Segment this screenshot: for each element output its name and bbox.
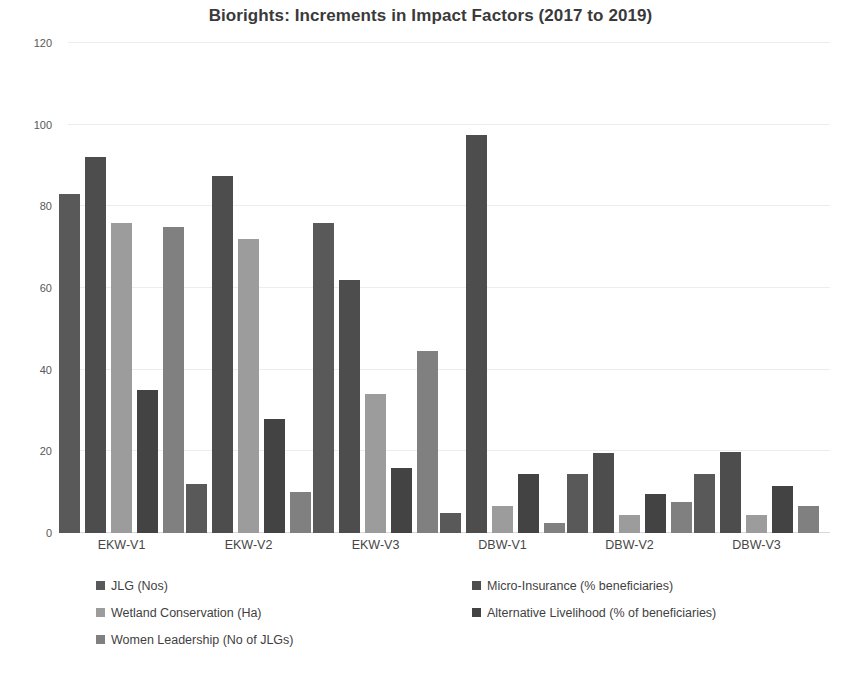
bar[interactable]	[238, 239, 259, 533]
bar[interactable]	[111, 223, 132, 533]
y-tick-label-0: 0	[46, 527, 52, 539]
legend-item[interactable]: JLG (Nos)	[96, 572, 294, 599]
chart-title: Biorights: Increments in Impact Factors …	[0, 6, 861, 26]
bar-group-dbw-v2	[576, 43, 703, 533]
bar-chart-figure: Biorights: Increments in Impact Factors …	[0, 0, 861, 677]
bar[interactable]	[466, 135, 487, 533]
bar[interactable]	[772, 486, 793, 533]
y-tick-label-20: 20	[40, 445, 52, 457]
legend-item[interactable]: Micro-Insurance (% beneficiaries)	[472, 572, 716, 599]
bar[interactable]	[85, 157, 106, 533]
bar[interactable]	[798, 506, 819, 533]
bar[interactable]	[518, 474, 539, 533]
bar[interactable]	[671, 502, 692, 533]
legend-column-right: Micro-Insurance (% beneficiaries)Alterna…	[472, 572, 716, 626]
bar[interactable]	[391, 468, 412, 533]
bar[interactable]	[137, 390, 158, 533]
bar[interactable]	[567, 474, 588, 533]
bar[interactable]	[492, 506, 513, 533]
bar-group-ekw-v3	[322, 43, 449, 533]
bar[interactable]	[720, 452, 741, 533]
y-tick-label-40: 40	[40, 364, 52, 376]
legend-swatch	[96, 608, 105, 617]
legend-swatch	[472, 581, 481, 590]
x-axis-category-labels: EKW-V1EKW-V2EKW-V3DBW-V1DBW-V2DBW-V3	[68, 538, 830, 558]
bar[interactable]	[544, 523, 565, 533]
bar[interactable]	[313, 223, 334, 533]
legend-label: Micro-Insurance (% beneficiaries)	[487, 579, 673, 593]
legend-label: Women Leadership (No of JLGs)	[111, 633, 294, 647]
legend-item[interactable]: Wetland Conservation (Ha)	[96, 599, 294, 626]
bar[interactable]	[339, 280, 360, 533]
x-tick-label-ekw-v1: EKW-V1	[98, 538, 146, 552]
bar[interactable]	[186, 484, 207, 533]
bar[interactable]	[440, 513, 461, 533]
bar-group-ekw-v2	[195, 43, 322, 533]
plot-area	[68, 43, 830, 533]
bar-group-dbw-v1	[449, 43, 576, 533]
bar[interactable]	[365, 394, 386, 533]
legend-column-left: JLG (Nos)Wetland Conservation (Ha)Women …	[96, 572, 294, 653]
bar[interactable]	[212, 176, 233, 533]
x-tick-label-ekw-v3: EKW-V3	[352, 538, 400, 552]
y-axis-tick-labels: 020406080100120	[0, 43, 62, 533]
chart-legend: JLG (Nos)Wetland Conservation (Ha)Women …	[0, 572, 861, 652]
bar[interactable]	[645, 494, 666, 533]
y-tick-label-80: 80	[40, 200, 52, 212]
bar[interactable]	[746, 515, 767, 533]
legend-item[interactable]: Women Leadership (No of JLGs)	[96, 626, 294, 653]
bar[interactable]	[619, 515, 640, 533]
legend-swatch	[472, 608, 481, 617]
bar[interactable]	[163, 227, 184, 533]
legend-label: JLG (Nos)	[111, 579, 168, 593]
y-tick-label-100: 100	[34, 119, 52, 131]
bar[interactable]	[290, 492, 311, 533]
bar-group-ekw-v1	[68, 43, 195, 533]
bar[interactable]	[417, 351, 438, 533]
legend-swatch	[96, 581, 105, 590]
bar[interactable]	[593, 453, 614, 533]
bar[interactable]	[264, 419, 285, 533]
legend-swatch	[96, 635, 105, 644]
bar[interactable]	[59, 194, 80, 533]
legend-label: Wetland Conservation (Ha)	[111, 606, 262, 620]
x-tick-label-dbw-v1: DBW-V1	[478, 538, 526, 552]
y-tick-label-120: 120	[34, 37, 52, 49]
bar[interactable]	[694, 474, 715, 533]
legend-item[interactable]: Alternative Livelihood (% of beneficiari…	[472, 599, 716, 626]
x-tick-label-dbw-v3: DBW-V3	[732, 538, 780, 552]
x-tick-label-dbw-v2: DBW-V2	[605, 538, 653, 552]
legend-label: Alternative Livelihood (% of beneficiari…	[487, 606, 716, 620]
y-tick-label-60: 60	[40, 282, 52, 294]
x-tick-label-ekw-v2: EKW-V2	[225, 538, 273, 552]
bar-group-dbw-v3	[703, 43, 830, 533]
